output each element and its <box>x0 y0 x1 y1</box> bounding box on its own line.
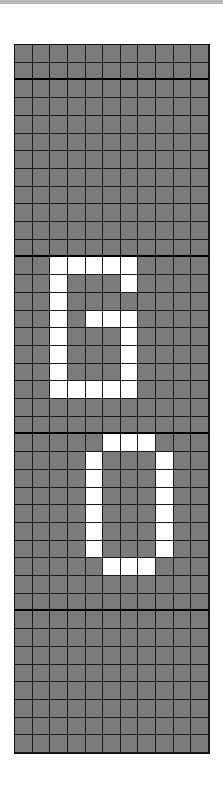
grid-cell[interactable] <box>174 257 192 275</box>
grid-cell[interactable] <box>50 381 68 399</box>
grid-cell[interactable] <box>103 381 121 399</box>
grid-cell[interactable] <box>50 452 68 470</box>
grid-cell[interactable] <box>15 311 33 329</box>
grid-cell[interactable] <box>138 80 156 98</box>
grid-cell[interactable] <box>50 682 68 700</box>
grid-cell[interactable] <box>174 116 192 134</box>
grid-cell[interactable] <box>174 718 192 736</box>
grid-cell[interactable] <box>174 151 192 169</box>
grid-cell[interactable] <box>33 116 51 134</box>
grid-cell[interactable] <box>68 346 86 364</box>
grid-cell[interactable] <box>174 576 192 594</box>
grid-cell[interactable] <box>33 134 51 152</box>
grid-cell[interactable] <box>156 647 174 665</box>
grid-cell[interactable] <box>50 399 68 417</box>
grid-cell[interactable] <box>191 346 209 364</box>
grid-cell[interactable] <box>138 116 156 134</box>
grid-cell[interactable] <box>156 718 174 736</box>
grid-cell[interactable] <box>68 558 86 576</box>
grid-cell[interactable] <box>121 399 139 417</box>
grid-cell[interactable] <box>33 735 51 753</box>
grid-cell[interactable] <box>33 80 51 98</box>
grid-cell[interactable] <box>68 611 86 629</box>
grid-cell[interactable] <box>50 275 68 293</box>
grid-cell[interactable] <box>121 718 139 736</box>
grid-cell[interactable] <box>121 204 139 222</box>
grid-cell[interactable] <box>15 505 33 523</box>
grid-cell[interactable] <box>68 541 86 559</box>
grid-cell[interactable] <box>156 665 174 683</box>
grid-cell[interactable] <box>15 594 33 612</box>
grid-cell[interactable] <box>33 629 51 647</box>
grid-cell[interactable] <box>103 346 121 364</box>
grid-cell[interactable] <box>50 222 68 240</box>
grid-cell[interactable] <box>121 63 139 81</box>
grid-cell[interactable] <box>15 346 33 364</box>
grid-cell[interactable] <box>156 399 174 417</box>
grid-cell[interactable] <box>33 523 51 541</box>
grid-cell[interactable] <box>50 151 68 169</box>
grid-cell[interactable] <box>86 417 104 435</box>
grid-cell[interactable] <box>15 63 33 81</box>
grid-cell[interactable] <box>121 647 139 665</box>
grid-cell[interactable] <box>68 434 86 452</box>
grid-cell[interactable] <box>174 63 192 81</box>
grid-cell[interactable] <box>68 381 86 399</box>
grid-cell[interactable] <box>50 80 68 98</box>
grid-cell[interactable] <box>68 134 86 152</box>
grid-cell[interactable] <box>50 470 68 488</box>
grid-cell[interactable] <box>121 116 139 134</box>
grid-cell[interactable] <box>121 417 139 435</box>
grid-cell[interactable] <box>138 718 156 736</box>
grid-cell[interactable] <box>174 629 192 647</box>
grid-cell[interactable] <box>15 452 33 470</box>
grid-cell[interactable] <box>33 275 51 293</box>
grid-cell[interactable] <box>191 328 209 346</box>
grid-cell[interactable] <box>33 488 51 506</box>
grid-cell[interactable] <box>191 293 209 311</box>
grid-cell[interactable] <box>50 187 68 205</box>
grid-cell[interactable] <box>191 311 209 329</box>
grid-cell[interactable] <box>86 346 104 364</box>
grid-cell[interactable] <box>138 222 156 240</box>
grid-cell[interactable] <box>50 417 68 435</box>
grid-cell[interactable] <box>191 98 209 116</box>
grid-cell[interactable] <box>174 452 192 470</box>
grid-cell[interactable] <box>156 417 174 435</box>
grid-cell[interactable] <box>156 523 174 541</box>
grid-cell[interactable] <box>86 240 104 258</box>
grid-cell[interactable] <box>103 311 121 329</box>
grid-cell[interactable] <box>33 470 51 488</box>
grid-cell[interactable] <box>191 134 209 152</box>
grid-cell[interactable] <box>156 434 174 452</box>
grid-cell[interactable] <box>50 647 68 665</box>
grid-cell[interactable] <box>138 665 156 683</box>
grid-cell[interactable] <box>68 505 86 523</box>
grid-cell[interactable] <box>174 204 192 222</box>
grid-cell[interactable] <box>138 576 156 594</box>
grid-cell[interactable] <box>15 611 33 629</box>
grid-cell[interactable] <box>121 222 139 240</box>
grid-cell[interactable] <box>86 470 104 488</box>
grid-cell[interactable] <box>156 328 174 346</box>
grid-cell[interactable] <box>174 80 192 98</box>
grid-cell[interactable] <box>174 541 192 559</box>
grid-cell[interactable] <box>33 576 51 594</box>
grid-cell[interactable] <box>138 257 156 275</box>
grid-cell[interactable] <box>174 735 192 753</box>
grid-cell[interactable] <box>86 665 104 683</box>
grid-cell[interactable] <box>86 311 104 329</box>
grid-cell[interactable] <box>50 488 68 506</box>
grid-cell[interactable] <box>156 134 174 152</box>
grid-cell[interactable] <box>103 116 121 134</box>
grid-cell[interactable] <box>68 45 86 63</box>
grid-cell[interactable] <box>15 470 33 488</box>
grid-cell[interactable] <box>103 700 121 718</box>
grid-cell[interactable] <box>138 134 156 152</box>
grid-cell[interactable] <box>86 434 104 452</box>
grid-cell[interactable] <box>50 505 68 523</box>
grid-cell[interactable] <box>138 558 156 576</box>
grid-cell[interactable] <box>86 116 104 134</box>
grid-cell[interactable] <box>86 399 104 417</box>
grid-cell[interactable] <box>50 576 68 594</box>
